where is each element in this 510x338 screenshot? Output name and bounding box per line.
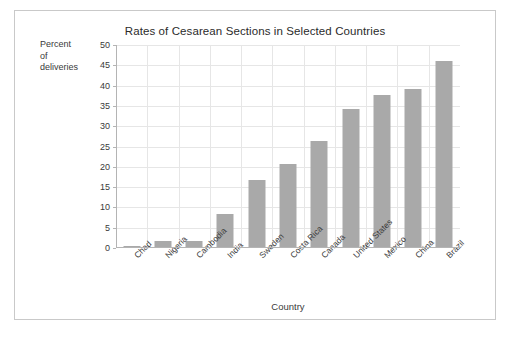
y-tick-label: 40 [100, 81, 110, 91]
y-tick-label: 25 [100, 142, 110, 152]
plot-frame [116, 45, 460, 248]
y-tick-label: 50 [100, 40, 110, 50]
y-tick-label: 15 [100, 182, 110, 192]
y-tick-mark [113, 248, 116, 249]
y-axis-title: Percent of deliveries [40, 39, 102, 74]
chart-title: Rates of Cesarean Sections in Selected C… [15, 25, 495, 37]
y-tick-label: 45 [100, 60, 110, 70]
y-axis-title-line-2: of [40, 51, 102, 63]
y-tick-label: 30 [100, 121, 110, 131]
y-tick-label: 35 [100, 101, 110, 111]
y-axis-title-line-3: deliveries [40, 62, 102, 74]
y-tick-label: 5 [105, 223, 110, 233]
chart-figure: Rates of Cesarean Sections in Selected C… [14, 10, 496, 320]
y-tick-label: 0 [105, 243, 110, 253]
y-axis-title-line-1: Percent [40, 39, 102, 51]
y-tick-label: 20 [100, 162, 110, 172]
y-tick-label: 10 [100, 202, 110, 212]
plot-area: 05101520253035404550 ChadNigeriaCambodia… [116, 45, 460, 248]
x-axis-title: Country [116, 301, 460, 312]
